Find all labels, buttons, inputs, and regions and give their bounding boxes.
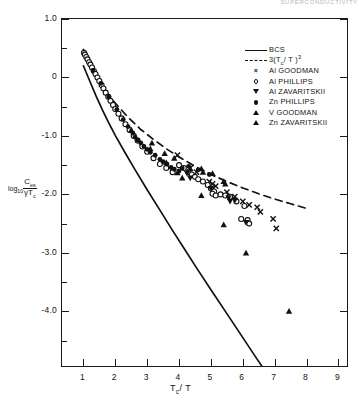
legend-label: Zn PHILLIPS	[269, 98, 315, 105]
y-tick	[62, 19, 69, 20]
x-axis-title: Tc/ T	[0, 383, 361, 395]
marker-triangle-up-icon	[243, 118, 269, 128]
y-tick-right	[340, 194, 347, 195]
data-point	[172, 167, 177, 172]
data-point	[274, 226, 279, 231]
data-point	[243, 250, 249, 256]
y-tick	[62, 311, 69, 312]
data-point	[106, 94, 111, 99]
legend-label: V GOODMAN	[269, 109, 317, 116]
y-tick-minor	[62, 224, 67, 225]
data-point	[91, 68, 96, 73]
figure-bcs-specific-heat: SUPERCONDUCTIVITY 1.00-1.0-2.0-3.0-4.0 1…	[0, 0, 361, 405]
y-tick-right	[340, 311, 347, 312]
legend-label: Al ZAVARITSKII	[269, 88, 325, 95]
marker-triangle-up-icon	[253, 110, 259, 115]
y-tick-label: -4.0	[19, 305, 57, 315]
legend-label: BCS	[269, 46, 285, 53]
x-tick	[275, 359, 276, 366]
y-tick-label: 1.0	[19, 13, 57, 23]
x-tick-label: 7	[266, 372, 282, 382]
data-point	[164, 166, 169, 171]
data-point	[180, 166, 185, 171]
data-point	[255, 205, 260, 210]
x-tick-label: 8	[298, 372, 314, 382]
data-point	[286, 308, 292, 314]
data-point	[196, 177, 201, 182]
data-point	[271, 216, 276, 221]
marker-x-icon: ×	[254, 67, 258, 74]
x-tick-label: 1	[74, 372, 90, 382]
x-tick-label: 4	[170, 372, 186, 382]
y-tick-right	[340, 253, 347, 254]
data-point	[213, 193, 218, 198]
y-axis-title: log10 Ces γTc	[8, 178, 60, 200]
legend-label: 3(Tc/ T )3	[269, 55, 301, 66]
legend-item-marker-x: ×Al GOODMAN	[243, 66, 327, 76]
y-tick-minor	[62, 282, 67, 283]
y-tick	[62, 136, 69, 137]
legend-label: Zn ZAVARITSKII	[269, 119, 327, 126]
data-point	[200, 179, 205, 184]
x-tick	[243, 359, 244, 366]
x-tick-label: 3	[138, 372, 154, 382]
legend-item-marker-tri-up2: Zn ZAVARITSKII	[243, 118, 327, 128]
x-tick	[179, 359, 180, 366]
legend-item-marker-circle: Al PHILLIPS	[243, 76, 327, 86]
y-tick-minor	[62, 107, 67, 108]
y-tick-label: -1.0	[19, 130, 57, 140]
y-tick-minor	[62, 48, 67, 49]
data-point	[175, 153, 180, 158]
data-point	[179, 175, 185, 181]
marker-circle-icon	[243, 76, 269, 86]
marker-triangle-up-icon	[243, 108, 269, 118]
y-tick-label: -3.0	[19, 247, 57, 257]
running-head: SUPERCONDUCTIVITY	[178, 0, 358, 6]
y-axis-title-log: log10	[8, 185, 23, 192]
dashed-line-icon	[243, 56, 269, 66]
y-tick-right	[340, 136, 347, 137]
legend-item-marker-tri-up: V GOODMAN	[243, 107, 327, 117]
data-point	[149, 140, 155, 146]
legend-item-solid-line: BCS	[243, 45, 327, 55]
y-tick	[62, 194, 69, 195]
marker-dot-icon	[254, 100, 259, 105]
legend-label: Al PHILLIPS	[269, 78, 313, 85]
x-tick	[83, 359, 84, 366]
y-tick	[62, 77, 69, 78]
marker-triangle-down-icon	[253, 89, 259, 94]
y-tick-right	[340, 19, 347, 20]
solid-line-icon	[243, 45, 269, 55]
data-point	[126, 124, 131, 129]
data-point	[121, 117, 126, 122]
marker-triangle-down-icon	[243, 87, 269, 97]
data-point	[239, 216, 244, 221]
y-tick-minor	[62, 341, 67, 342]
y-tick	[62, 253, 69, 254]
data-point	[258, 209, 263, 214]
data-point	[99, 81, 104, 86]
x-tick	[211, 359, 212, 366]
y-axis-title-fraction: Ces γTc	[23, 178, 37, 200]
legend-item-marker-tri-down: Al ZAVARITSKII	[243, 87, 327, 97]
marker-dot-icon	[243, 97, 269, 107]
y-tick-minor	[62, 165, 67, 166]
data-point	[220, 222, 226, 228]
data-point	[153, 153, 158, 158]
legend-item-dashed-line: 3(Tc/ T )3	[243, 55, 327, 65]
marker-x-icon: ×	[243, 66, 269, 76]
data-point	[161, 150, 167, 156]
series-al-phillips	[82, 50, 252, 226]
x-tick	[307, 359, 308, 366]
x-tick-label: 5	[202, 372, 218, 382]
x-tick	[338, 359, 339, 366]
legend: BCS3(Tc/ T )3×Al GOODMANAl PHILLIPSAl ZA…	[243, 45, 327, 128]
data-point	[242, 204, 247, 209]
dashed-line-icon	[245, 60, 267, 61]
data-point	[227, 199, 233, 205]
y-axis-title-denominator: γTc	[23, 189, 37, 199]
series-zn-phillips	[91, 68, 212, 177]
marker-triangle-up-icon	[253, 120, 259, 125]
data-point	[114, 107, 119, 112]
legend-item-marker-dot: Zn PHILLIPS	[243, 97, 327, 107]
